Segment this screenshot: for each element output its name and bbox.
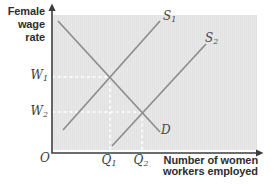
x-axis-title: Number of women workers employed — [150, 155, 258, 177]
q2-label-sub: 2 — [143, 159, 148, 168]
s2-curve-label: S2 — [205, 32, 218, 45]
q1-label-sub: 1 — [111, 159, 116, 168]
s1-label-sub: 1 — [171, 15, 176, 24]
x-axis-title-line2: workers employed — [150, 166, 258, 177]
s2-label-base: S — [205, 31, 213, 45]
y-axis-title-line1: Female — [2, 5, 45, 18]
q2-label-base: Q — [134, 153, 144, 167]
axes-lines — [52, 9, 258, 153]
y-axis-arrow-icon — [48, 4, 55, 12]
y-axis-title-line3: rate — [2, 31, 45, 44]
origin-label: O — [40, 152, 50, 165]
w2-label-base: W — [31, 104, 43, 118]
w1-label-sub: 1 — [43, 74, 48, 83]
w2-label-sub: 2 — [43, 110, 48, 119]
s1-curve-label: S1 — [163, 10, 176, 23]
q1-label: Q1 — [98, 154, 120, 167]
s2-label-sub: 2 — [213, 37, 218, 46]
y-axis-title: Female wage rate — [2, 5, 45, 44]
w2-label: W2 — [20, 105, 48, 118]
w1-label: W1 — [20, 69, 48, 82]
s1-label-base: S — [163, 9, 171, 23]
q2-label: Q2 — [130, 154, 152, 167]
w1-label-base: W — [31, 68, 43, 82]
demand-curve-label: D — [161, 124, 171, 137]
supply-curve-s1 — [63, 21, 160, 130]
q1-label-base: Q — [102, 153, 112, 167]
supply-demand-diagram: Female wage rate Number of women workers… — [0, 0, 274, 186]
y-axis-title-line2: wage — [2, 18, 45, 31]
